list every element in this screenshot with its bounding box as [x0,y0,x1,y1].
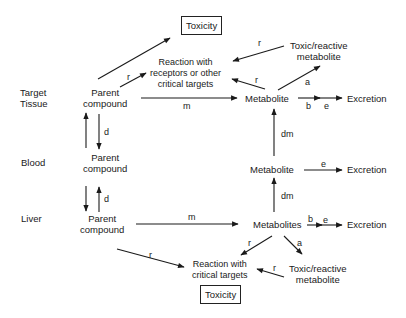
edge-label-r: r [273,263,276,274]
row-label-target: Target [20,87,48,98]
row-label-tissue: Tissue [20,98,48,109]
edge-label-b: b [306,101,311,112]
arrow-metabolite-to-reaction-top [232,79,265,89]
row-label-target-tissue: Target Tissue [20,87,48,109]
node-excretion-target: Excretion [347,93,387,104]
node-text: critical targets [150,79,221,90]
edge-label-d: d [104,194,109,205]
node-text: Parent [83,87,127,98]
edge-label-dm: dm [281,191,294,202]
row-label-liver: Liver [21,213,42,224]
edge-label-dm: dm [281,129,294,140]
node-text: Toxic/reactive [290,40,348,51]
edge-label-a: a [305,77,310,88]
node-metabolite-blood: Metabolite [250,164,294,175]
node-reaction-critical-targets: Reaction with critical targets [192,259,248,281]
node-toxic-reactive-top: Toxic/reactive metabolite [290,40,348,62]
node-text: compound [83,98,127,109]
edge-label-a: a [297,238,302,249]
node-metabolites-liver: Metabolites [253,219,302,230]
arrow-toxic-to-reaction-liver [257,269,284,277]
node-text: metabolite [289,274,347,285]
node-text: compound [80,224,124,235]
node-toxic-reactive-liver: Toxic/reactive metabolite [289,263,347,285]
edge-label-r: r [149,250,152,261]
node-text: metabolite [290,51,348,62]
node-reaction-receptors: Reaction with receptors or other critica… [150,57,221,90]
node-text: Toxic/reactive [289,263,347,274]
node-text: Parent [80,213,124,224]
node-toxicity-bottom: Toxicity [200,285,241,304]
node-parent-compound-blood: Parent compound [83,152,127,174]
edge-label-e: e [324,101,329,112]
edge-label-r: r [248,238,251,249]
edge-label-m: m [183,101,191,112]
node-metabolite-target: Metabolite [245,93,289,104]
arrow-parent-to-reaction-top [120,73,146,87]
arrow-metabolite-to-toxic-top [278,66,320,90]
node-toxicity-top: Toxicity [181,16,222,35]
edge-label-r: r [258,38,261,49]
edge-label-d: d [104,127,109,138]
edge-label-r: r [255,75,258,86]
node-text: critical targets [192,270,248,281]
edge-label-r: r [127,72,130,83]
node-text: Parent [83,152,127,163]
node-text: Reaction with [192,259,248,270]
caption-cutoff [0,309,406,318]
edge-label-e: e [323,215,328,226]
node-excretion-blood: Excretion [347,164,387,175]
node-parent-compound-liver: Parent compound [80,213,124,235]
node-text: Reaction with [150,57,221,68]
node-text: receptors or other [150,68,221,79]
node-excretion-liver: Excretion [347,219,387,230]
row-label-blood: Blood [21,157,45,168]
node-text: compound [83,163,127,174]
edge-label-m: m [188,212,196,223]
arrow-metabolites-to-reaction-liver [241,236,272,255]
edge-label-e: e [321,159,326,170]
edge-label-b: b [308,214,313,225]
node-parent-compound-target: Parent compound [83,87,127,109]
